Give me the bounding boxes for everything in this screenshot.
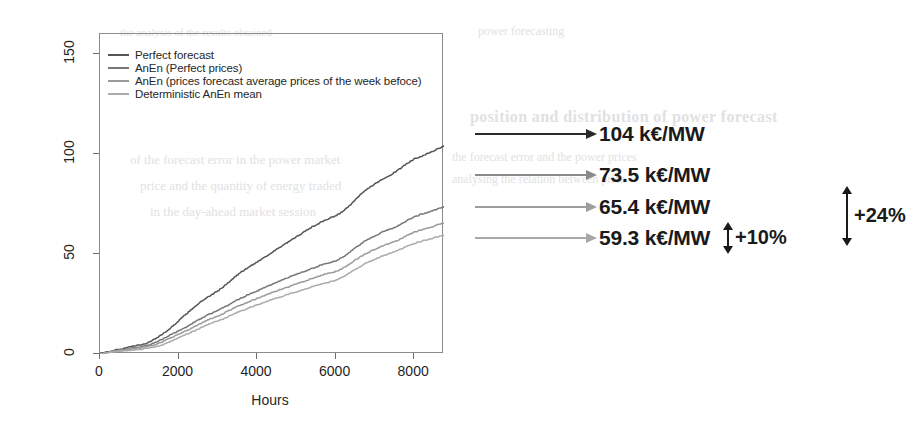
y-tick-label: 50: [61, 232, 77, 272]
annotation-row: 65.4 k€/MW: [475, 193, 710, 221]
legend-item: Perfect forecast: [108, 48, 422, 61]
annotation-value: 65.4 k€/MW: [599, 195, 710, 219]
series-line: [100, 223, 444, 354]
annotation-row: 73.5 k€/MW: [475, 161, 710, 189]
double-arrow-up-down-icon: [840, 186, 854, 246]
legend-item: AnEn (Perfect prices): [108, 61, 422, 74]
arrow-icon: [475, 233, 597, 243]
legend-color-swatch: [108, 80, 129, 82]
legend-label: AnEn (prices forecast average prices of …: [135, 75, 422, 87]
delta-small-label: +10%: [735, 226, 787, 249]
arrow-icon: [475, 129, 597, 139]
legend-item: AnEn (prices forecast average prices of …: [108, 74, 422, 87]
annotation-panel: 104 k€/MW 73.5 k€/MW 65.4 k€/MW 59.3 k€/…: [455, 0, 899, 436]
y-tick-label: 100: [61, 132, 77, 172]
series-line: [100, 146, 444, 354]
y-tick-label: 150: [61, 32, 77, 72]
delta-large-label: +24%: [854, 204, 906, 227]
annotation-row: 59.3 k€/MW: [475, 224, 710, 252]
double-arrow-up-down-icon: [721, 222, 735, 254]
x-tick-label: 4000: [226, 363, 286, 379]
legend-color-swatch: [108, 54, 129, 56]
x-tick-label: 0: [69, 363, 129, 379]
legend-label: AnEn (Perfect prices): [135, 62, 242, 74]
x-tick-label: 6000: [305, 363, 365, 379]
annotation-row: 104 k€/MW: [475, 120, 705, 148]
legend-item: Deterministic AnEn mean: [108, 87, 422, 100]
legend-color-swatch: [108, 67, 129, 69]
legend-label: Deterministic AnEn mean: [135, 88, 262, 100]
chart-legend: Perfect forecastAnEn (Perfect prices)AnE…: [108, 48, 422, 100]
legend-label: Perfect forecast: [135, 49, 214, 61]
x-tick-label: 2000: [148, 363, 208, 379]
arrow-icon: [475, 170, 597, 180]
series-line: [100, 207, 444, 354]
line-chart: Income (K€/MW) Hours 050100150 020004000…: [0, 0, 470, 436]
annotation-value: 104 k€/MW: [599, 122, 705, 146]
x-tick-label: 8000: [383, 363, 443, 379]
x-axis-label: Hours: [190, 392, 350, 408]
legend-color-swatch: [108, 93, 129, 95]
arrow-icon: [475, 202, 597, 212]
annotation-value: 73.5 k€/MW: [599, 163, 710, 187]
annotation-value: 59.3 k€/MW: [599, 226, 710, 250]
